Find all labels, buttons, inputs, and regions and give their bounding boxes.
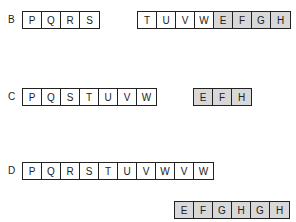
cell: V bbox=[137, 163, 156, 179]
row-b-group-1: P Q R S bbox=[22, 11, 100, 29]
cell: P bbox=[23, 89, 42, 105]
shaded-cell: F bbox=[233, 12, 252, 28]
row-b-group-2: T U V W E F G H bbox=[137, 11, 291, 29]
cell: W bbox=[137, 89, 156, 105]
shaded-cell: H bbox=[270, 202, 289, 218]
cell: S bbox=[80, 163, 99, 179]
shaded-cell: G bbox=[251, 202, 270, 218]
row-label-d: D bbox=[8, 162, 15, 180]
cell: Q bbox=[42, 89, 61, 105]
cell: T bbox=[99, 163, 118, 179]
shaded-cell: H bbox=[232, 89, 251, 105]
shaded-cell: E bbox=[194, 89, 213, 105]
cell: U bbox=[157, 12, 176, 28]
cell: W bbox=[195, 12, 214, 28]
shaded-cell: E bbox=[175, 202, 194, 218]
shaded-cell: G bbox=[213, 202, 232, 218]
cell: V bbox=[176, 12, 195, 28]
cell: T bbox=[138, 12, 157, 28]
cell: R bbox=[61, 12, 80, 28]
cell: S bbox=[61, 89, 80, 105]
shaded-cell: F bbox=[194, 202, 213, 218]
cell: Q bbox=[42, 163, 61, 179]
row-label-c: C bbox=[8, 88, 15, 106]
cell: R bbox=[61, 163, 80, 179]
cell: W bbox=[194, 163, 213, 179]
cell: U bbox=[99, 89, 118, 105]
cell: T bbox=[80, 89, 99, 105]
row-c-group-2: E F H bbox=[193, 88, 252, 106]
shaded-cell: G bbox=[252, 12, 271, 28]
shaded-cell: F bbox=[213, 89, 232, 105]
row-d-group-1: P Q R S T U V W V W bbox=[22, 162, 214, 180]
cell: P bbox=[23, 12, 42, 28]
cell: V bbox=[175, 163, 194, 179]
cell: P bbox=[23, 163, 42, 179]
cell: W bbox=[156, 163, 175, 179]
cell: V bbox=[118, 89, 137, 105]
cell: Q bbox=[42, 12, 61, 28]
cell: U bbox=[118, 163, 137, 179]
shaded-cell: H bbox=[232, 202, 251, 218]
shaded-cell: E bbox=[214, 12, 233, 28]
row-d-group-2: E F G H G H bbox=[174, 201, 290, 219]
row-label-b: B bbox=[8, 11, 15, 29]
row-c-group-1: P Q S T U V W bbox=[22, 88, 157, 106]
shaded-cell: H bbox=[271, 12, 290, 28]
cell: S bbox=[80, 12, 99, 28]
